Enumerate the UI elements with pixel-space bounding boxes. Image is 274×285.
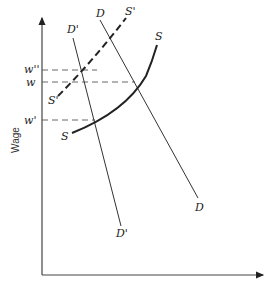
label-d-top: D (95, 7, 105, 20)
label-w: w (26, 76, 36, 89)
label-s-prime-top: S' (125, 5, 136, 18)
demand-curve-d-prime (73, 38, 121, 226)
label-w-double-prime: w'' (24, 63, 39, 76)
y-axis-label: Wage (10, 127, 21, 153)
label-d-bottom: D (194, 201, 204, 214)
label-d-prime-top: D' (66, 23, 79, 36)
label-s-top: S (155, 30, 163, 43)
label-s-bottom: S (61, 130, 69, 143)
wage-diagram: Wage w'' w w' D' D' D D S' S' S S (0, 0, 274, 285)
label-s-prime-bottom: S' (48, 94, 59, 107)
label-w-prime: w' (24, 114, 36, 127)
label-d-prime-bottom: D' (115, 227, 128, 240)
